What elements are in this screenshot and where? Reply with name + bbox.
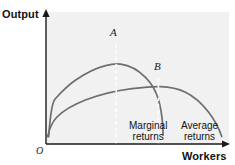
origin-label: O — [36, 145, 43, 156]
marginal-returns-annotation-line1: Marginal — [129, 121, 167, 132]
marginal-returns-annotation: Marginal returns — [129, 121, 167, 142]
point-a-label: A — [110, 26, 117, 38]
marginal-returns-annotation-line2: returns — [129, 132, 167, 143]
y-axis-title: Output — [2, 8, 39, 20]
point-b-label: B — [154, 60, 161, 72]
average-returns-annotation-line1: Average — [181, 121, 218, 132]
x-axis-title: Workers — [182, 150, 227, 162]
average-returns-annotation: Average returns — [181, 121, 218, 142]
production-function-chart: Output Workers O A B Marginal returns Av… — [0, 0, 235, 165]
average-returns-annotation-line2: returns — [181, 132, 218, 143]
